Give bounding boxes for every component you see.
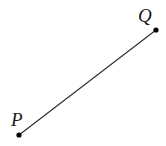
point-label-p: P (11, 110, 23, 129)
point-label-q: Q (138, 6, 152, 25)
point-marker-q (153, 27, 158, 32)
geometry-figure-canvas: P Q (0, 0, 166, 146)
line-segment-pq (19, 30, 156, 135)
point-marker-p (16, 132, 21, 137)
